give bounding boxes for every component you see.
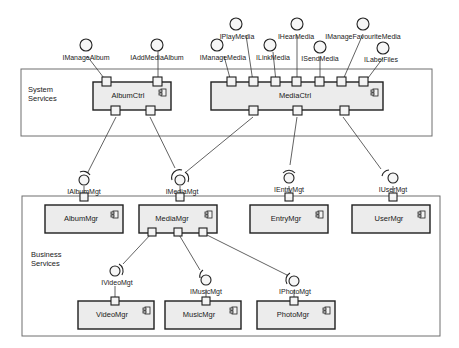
component-user-mgr[interactable]: UserMgr: [352, 193, 430, 233]
label-ilink-media: ILinkMedia: [256, 54, 290, 61]
label-imusic-mgt: IMusicMgt: [190, 288, 222, 296]
component-media-mgr[interactable]: MediaMgr: [139, 193, 217, 236]
system-services-label-2: Services: [28, 94, 57, 103]
iface-iphoto-mgt-icon: [286, 273, 299, 286]
port: [153, 77, 162, 86]
ball-iplay-media-icon: [230, 18, 242, 30]
media-mgr-label: MediaMgr: [155, 214, 189, 223]
business-services-label-2: Services: [31, 259, 60, 268]
component-photo-mgr[interactable]: PhotoMgr: [257, 297, 335, 329]
user-mgr-label: UserMgr: [375, 214, 404, 223]
video-mgr-label: VideoMgr: [96, 310, 128, 319]
album-ctrl-label: AlbumCtrl: [112, 91, 145, 100]
ball-ilink-media-icon: [264, 39, 276, 51]
ball-imanage-album-icon: [80, 39, 92, 51]
component-album-mgr[interactable]: AlbumMgr: [45, 193, 123, 233]
music-mgr-label: MusicMgr: [183, 310, 216, 319]
label-iphoto-mgt: IPhotoMgt: [279, 288, 311, 296]
label-imanage-media: IManageMedia: [200, 54, 246, 62]
label-imanage-favourite-media: IManageFavouriteMedia: [325, 33, 401, 41]
component-video-mgr[interactable]: VideoMgr: [78, 297, 154, 329]
connectors: [84, 34, 393, 297]
component-entry-mgr[interactable]: EntryMgr: [250, 193, 328, 233]
ball-iadd-media-album-icon: [151, 39, 163, 51]
port: [146, 106, 155, 115]
iface-iuser-mgt-icon: [382, 170, 398, 183]
ball-imanage-favourite-media-icon: [357, 18, 369, 30]
iface-imusic-mgt-icon: [200, 270, 211, 285]
ball-ihear-media-icon: [291, 18, 303, 30]
iface-ientry-mgt-icon: [283, 170, 295, 183]
iface-ialbum-mgt-icon: [79, 171, 90, 185]
photo-mgr-label: PhotoMgr: [277, 310, 310, 319]
media-ctrl-label: MediaCtrl: [279, 91, 311, 100]
label-iadd-media-album: IAddMediaAlbum: [130, 54, 183, 61]
album-mgr-label: AlbumMgr: [64, 214, 99, 223]
required-interfaces: IAlbumMgt IMediaMgt IEntryMgt IUserMgt: [67, 170, 407, 196]
provided-interfaces: IManageAlbum IAddMediaAlbum IManageMedia…: [62, 18, 400, 63]
component-album-ctrl[interactable]: AlbumCtrl: [93, 77, 171, 115]
label-ivideo-mgt: IVideoMgt: [101, 279, 132, 287]
label-isend-media: ISendMedia: [301, 55, 338, 62]
business-services-label-1: Business: [31, 250, 62, 259]
sub-required-interfaces: IVideoMgt IMusicMgt IPhotoMgt: [101, 264, 311, 296]
port: [102, 77, 111, 86]
ball-ilabel-files-icon: [377, 42, 389, 54]
ball-imanage-media-icon: [211, 39, 223, 51]
label-ihear-media: IHearMedia: [278, 33, 314, 40]
label-ilabel-files: ILabelFiles: [364, 56, 398, 63]
iface-ivideo-mgt-icon: [110, 264, 123, 276]
label-imanage-album: IManageAlbum: [62, 54, 109, 62]
entry-mgr-label: EntryMgr: [271, 214, 302, 223]
component-music-mgr[interactable]: MusicMgr: [165, 297, 241, 329]
component-media-ctrl[interactable]: MediaCtrl: [211, 77, 383, 115]
port: [111, 106, 120, 115]
label-iplay-media: IPlayMedia: [220, 33, 255, 41]
component-diagram: System Services Business Services: [0, 0, 459, 348]
ball-isend-media-icon: [314, 41, 326, 53]
system-services-label-1: System: [28, 85, 53, 94]
